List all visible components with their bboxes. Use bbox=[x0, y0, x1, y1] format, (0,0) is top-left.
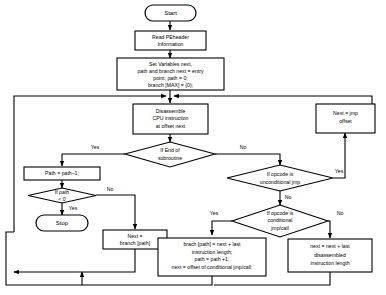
node-uncond-line-1: unconditional jmp bbox=[260, 179, 300, 185]
node-next-adv-line-1: disassembled bbox=[314, 252, 346, 258]
node-if-path-less-than-zero[interactable]: If path < 0 bbox=[28, 188, 96, 203]
node-set-vars-line-3: branch [MAX] = {0}; bbox=[148, 82, 193, 88]
node-start-label: Start bbox=[164, 10, 177, 16]
edge-label-uncond-no: No bbox=[285, 194, 292, 200]
edge-next-branch-to-loop bbox=[14, 249, 135, 272]
edge-label-end-sub-no: No bbox=[240, 144, 247, 150]
node-path-dec-label: Path = path–1; bbox=[45, 170, 79, 176]
node-stop[interactable]: Stop bbox=[36, 215, 88, 231]
node-cond-line-1: conditional bbox=[268, 217, 293, 223]
node-set-vars-line-2: point; path = 0; bbox=[153, 75, 187, 81]
edge-label-if-path-no: No bbox=[107, 186, 114, 192]
edge-bottom-rail-to-left bbox=[6, 232, 82, 285]
node-branch-set-line-0: brach [path] = next + last bbox=[183, 241, 241, 247]
node-branch-set-line-1: instruction length; bbox=[192, 249, 233, 255]
node-set-vars-line-1: path and branch next = entry bbox=[137, 68, 204, 74]
node-cond-line-2: jmp/call bbox=[270, 225, 289, 231]
node-disassemble[interactable]: Disassemble CPU instruction at offset ne… bbox=[133, 104, 208, 134]
node-read-pe-line-1: Information bbox=[158, 41, 184, 47]
node-branch-set-line-2: path = path +1; bbox=[195, 256, 230, 262]
node-next-advance[interactable]: next = next + last disassembled instruct… bbox=[288, 239, 372, 272]
node-cond-line-0: If opcode is bbox=[267, 210, 294, 216]
node-read-pe[interactable]: Read PEheader Information bbox=[135, 31, 206, 50]
node-if-end-of-subroutine[interactable]: If End of subroutine bbox=[125, 142, 215, 167]
node-if-path-line-0: If path bbox=[55, 189, 70, 195]
edge-label-cond-no: No bbox=[337, 210, 344, 216]
node-end-sub-line-1: subroutine bbox=[158, 155, 182, 161]
edge-label-if-path-yes: Yes bbox=[69, 205, 78, 211]
node-if-path-line-1: < 0 bbox=[58, 196, 65, 202]
edge-cond-yes bbox=[212, 221, 232, 235]
node-next-jmp-line-1: offset bbox=[339, 118, 352, 124]
node-stop-label: Stop bbox=[56, 220, 69, 226]
node-layer: Start Read PEheader Information Set Vari… bbox=[24, 5, 375, 276]
node-next-branch-path[interactable]: Next = branch [path] bbox=[103, 230, 167, 249]
node-start[interactable]: Start bbox=[145, 5, 196, 21]
node-next-branch-line-1: branch [path] bbox=[120, 240, 151, 246]
node-if-conditional-jmp-call[interactable]: If opcode is conditional jmp/call bbox=[232, 205, 328, 237]
edge-label-uncond-yes: Yes bbox=[335, 168, 344, 174]
edge-if-path-no bbox=[96, 195, 135, 229]
flowchart-canvas: Yes No Yes No Yes No Yes No Start Read P… bbox=[0, 0, 386, 295]
node-disassemble-line-0: Disassemble bbox=[156, 108, 186, 114]
node-next-jmp-offset[interactable]: Next = jmp offset bbox=[316, 104, 375, 133]
edge-cond-no bbox=[328, 221, 330, 238]
node-next-adv-line-0: next = next + last bbox=[310, 243, 350, 249]
node-if-unconditional-jmp[interactable]: If opcode is unconditional jmp bbox=[227, 165, 333, 191]
node-disassemble-line-2: at offset next bbox=[156, 123, 186, 129]
node-branch-assignment[interactable]: brach [path] = next + last instruction l… bbox=[158, 238, 266, 276]
node-set-vars-line-0: Set Variables next, bbox=[149, 61, 192, 67]
node-next-branch-line-0: Next = bbox=[127, 233, 142, 239]
node-set-vars[interactable]: Set Variables next, path and branch next… bbox=[117, 58, 224, 90]
node-read-pe-line-0: Read PEheader bbox=[152, 34, 189, 40]
node-branch-set-line-3: next = offset of conditional jmp/call; bbox=[172, 264, 253, 270]
node-next-adv-line-2: instruction length bbox=[310, 260, 349, 266]
edge-end-sub-yes bbox=[62, 154, 125, 166]
node-uncond-line-0: If opcode is bbox=[267, 171, 294, 177]
edge-label-cond-yes: Yes bbox=[210, 210, 219, 216]
edge-label-end-sub-yes: Yes bbox=[91, 144, 100, 150]
flowchart-svg: Yes No Yes No Yes No Yes No Start Read P… bbox=[0, 0, 386, 295]
node-path-decrement[interactable]: Path = path–1; bbox=[24, 167, 100, 180]
node-disassemble-line-1: CPU instruction bbox=[152, 115, 188, 121]
node-end-sub-line-0: If End of bbox=[160, 147, 180, 153]
node-next-jmp-line-0: Next = jmp bbox=[333, 110, 358, 116]
edge-end-sub-no bbox=[215, 154, 280, 165]
